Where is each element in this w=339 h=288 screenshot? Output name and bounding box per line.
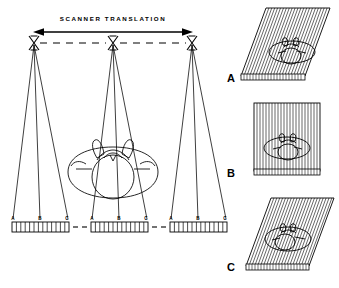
figure-canvas: SCANNER TRANSLATION (0, 0, 339, 288)
panel-c-label: C (227, 261, 235, 273)
panel-b-detector-strip (254, 169, 320, 175)
panel-b-label: B (227, 167, 235, 179)
panel-c-detector-strip (246, 264, 309, 270)
panel-a-detector-strip (241, 74, 305, 80)
panel-a-label: A (227, 72, 235, 84)
scanner-translation-figure: SCANNER TRANSLATION (0, 0, 339, 288)
figure-title: SCANNER TRANSLATION (60, 15, 167, 22)
